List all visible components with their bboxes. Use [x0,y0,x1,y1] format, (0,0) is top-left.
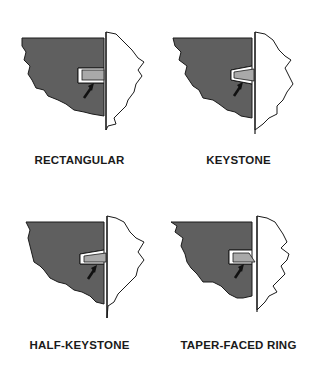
panel-half-keystone: HALF-KEYSTONE [0,182,159,364]
label-taper-faced-ring: TAPER-FACED RING [159,339,318,351]
panel-keystone: KEYSTONE [159,0,318,182]
cylinder-wall [255,32,293,130]
cylinder-wall [257,216,289,310]
panel-rectangular: RECTANGULAR [0,0,159,182]
half-keystone-ring-diagram [0,182,159,365]
cylinder-wall [107,216,144,318]
label-keystone: KEYSTONE [159,154,318,166]
cylinder-wall [106,32,144,130]
taper-faced-ring-diagram [159,182,318,365]
label-rectangular: RECTANGULAR [0,154,159,166]
piston-ring [82,70,104,80]
panel-taper-faced-ring: TAPER-FACED RING [159,182,318,364]
label-half-keystone: HALF-KEYSTONE [0,339,159,351]
